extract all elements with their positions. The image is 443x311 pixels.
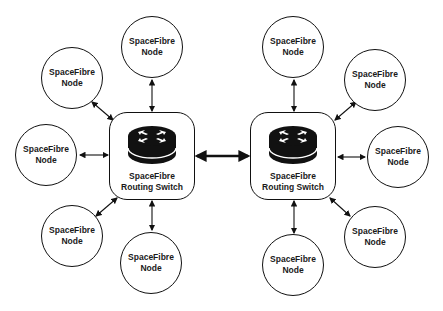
node-label-line2: Node bbox=[387, 157, 408, 168]
node-left-lower: SpaceFibre Node bbox=[41, 205, 103, 267]
node-label-line1: SpaceFibre bbox=[352, 226, 398, 237]
node-label-line1: SpaceFibre bbox=[270, 254, 316, 265]
router-icon bbox=[265, 122, 321, 168]
link-left-lowerleft bbox=[96, 198, 117, 216]
switch-label-line2: Routing Switch bbox=[121, 182, 183, 193]
node-left-top: SpaceFibre Node bbox=[121, 16, 183, 78]
node-label-line2: Node bbox=[140, 263, 161, 274]
node-right-top: SpaceFibre Node bbox=[262, 16, 324, 78]
node-right-bottom: SpaceFibre Node bbox=[262, 234, 324, 296]
node-left-upper: SpaceFibre Node bbox=[41, 47, 103, 109]
node-label-line2: Node bbox=[61, 236, 82, 247]
node-label-line2: Node bbox=[364, 237, 385, 248]
node-label-line1: SpaceFibre bbox=[49, 67, 95, 78]
node-left-bottom: SpaceFibre Node bbox=[120, 232, 182, 294]
node-label-line2: Node bbox=[61, 78, 82, 89]
routing-switch-right: SpaceFibre Routing Switch bbox=[250, 112, 336, 200]
switch-label-line2: Routing Switch bbox=[262, 182, 324, 193]
node-label-line1: SpaceFibre bbox=[49, 225, 95, 236]
node-label-line2: Node bbox=[364, 80, 385, 91]
node-label-line1: SpaceFibre bbox=[128, 252, 174, 263]
link-right-lowerright bbox=[330, 198, 350, 216]
node-label-line1: SpaceFibre bbox=[129, 36, 175, 47]
node-right-lower: SpaceFibre Node bbox=[344, 206, 406, 268]
node-label-line2: Node bbox=[35, 155, 56, 166]
node-right-upper: SpaceFibre Node bbox=[344, 49, 406, 111]
node-left-middle: SpaceFibre Node bbox=[15, 124, 77, 186]
switch-label-line1: SpaceFibre bbox=[121, 171, 183, 182]
node-label-line2: Node bbox=[141, 47, 162, 58]
router-icon bbox=[124, 122, 180, 168]
switch-label: SpaceFibre Routing Switch bbox=[121, 171, 183, 193]
node-label-line1: SpaceFibre bbox=[23, 144, 69, 155]
link-right-upperright bbox=[335, 102, 356, 120]
routing-switch-left: SpaceFibre Routing Switch bbox=[109, 112, 195, 200]
node-label-line1: SpaceFibre bbox=[352, 69, 398, 80]
node-label-line1: SpaceFibre bbox=[375, 146, 421, 157]
node-label-line2: Node bbox=[282, 265, 303, 276]
switch-label: SpaceFibre Routing Switch bbox=[262, 171, 324, 193]
link-left-upperleft bbox=[92, 102, 113, 120]
node-label-line1: SpaceFibre bbox=[270, 36, 316, 47]
switch-label-line1: SpaceFibre bbox=[262, 171, 324, 182]
node-right-middle: SpaceFibre Node bbox=[367, 126, 429, 188]
node-label-line2: Node bbox=[282, 47, 303, 58]
